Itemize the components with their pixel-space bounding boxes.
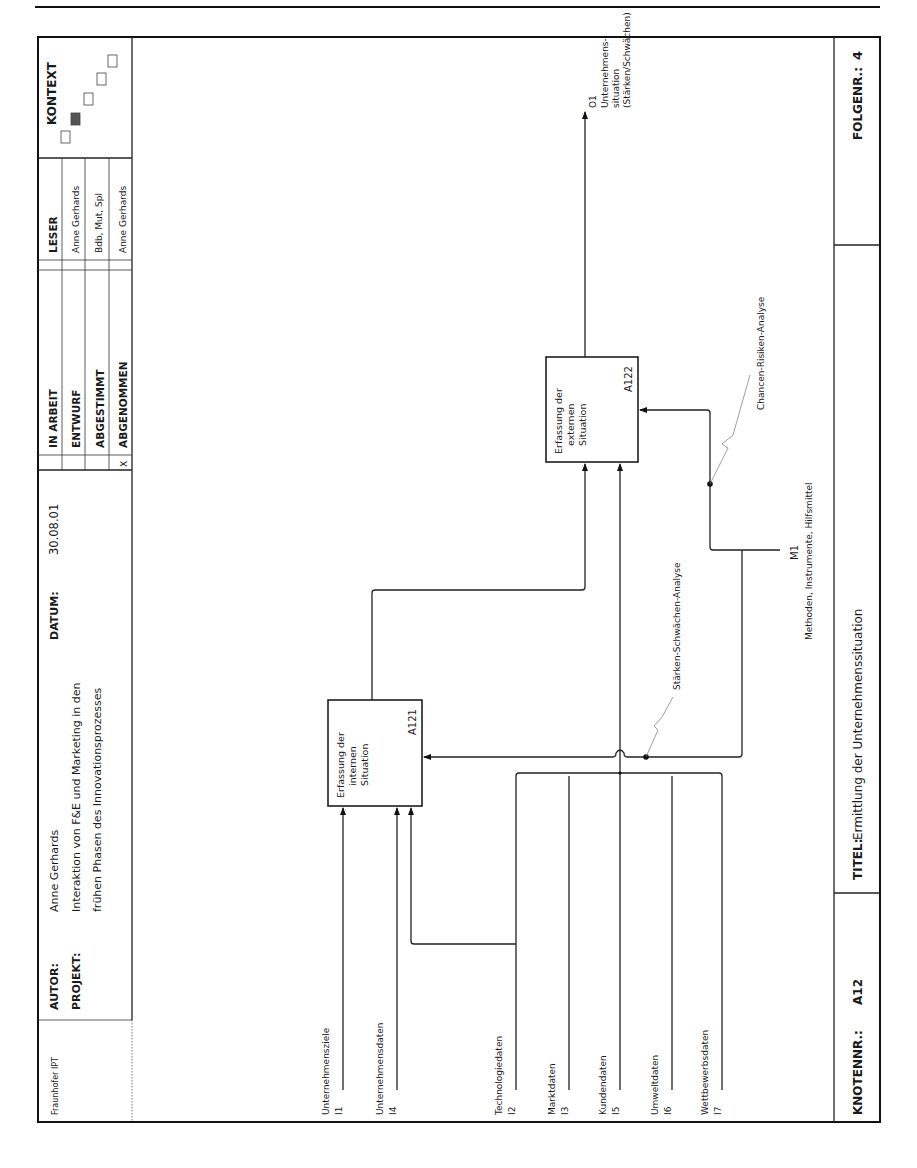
input-i6-label: Umweltdaten: [650, 1055, 660, 1115]
input-i1-code: I1: [334, 1107, 344, 1115]
arrow-a121-to-a122: [372, 464, 585, 700]
status-entwurf: ENTWURF: [70, 390, 82, 449]
date-value: 30.08.01: [47, 504, 61, 555]
status-abgenommen-mark: X: [119, 461, 129, 467]
arrow-i2-branch-a121: [411, 808, 516, 944]
input-i5-code: I5: [611, 1107, 621, 1115]
mechanism-label: Methoden, Instrumente, Hilfsmittel: [804, 483, 814, 640]
input-labels: Unternehmensziele I1 Unternehmensdaten I…: [321, 1022, 723, 1116]
annotation-leader-opportunities: [710, 375, 750, 484]
arrow-m1-a122: [640, 410, 780, 550]
input-i7-label: Wettbewerbsdaten: [700, 1030, 710, 1115]
annotation-leader-strengths: [646, 697, 673, 757]
reader-label: LESER: [47, 216, 59, 253]
project-line-1: Interaktion von F&E und Marketing in den: [70, 682, 83, 912]
a122-label-line1: Erfassung der: [553, 388, 564, 454]
context-node-5: [108, 55, 117, 67]
project-line-2: frühen Phasen des Innovationsprozesses: [91, 687, 104, 912]
input-i2-code: I2: [507, 1107, 517, 1115]
sequence-label: FOLGENR.:: [851, 67, 865, 140]
node-number: A12: [851, 979, 865, 1005]
a121-label-line1: Erfassung der: [335, 732, 346, 798]
project-label: PROJEKT:: [70, 953, 83, 1010]
mechanism-code: M1: [789, 545, 800, 560]
annotation-strengths-weaknesses: Stärken-Schwächen-Analyse: [672, 562, 682, 690]
a121-id: A121: [407, 709, 418, 735]
output-label-line1: Unternehmens-: [600, 38, 610, 108]
output-label-line2: situation: [611, 69, 621, 108]
a122-label-line2: externen: [565, 404, 576, 447]
a121-label-line2: internen: [347, 746, 358, 786]
arrow-m1-a121: [424, 550, 742, 757]
title-value: Ermittlung der Unternehmenssituation: [851, 609, 865, 840]
title-label: TITEL:: [851, 839, 865, 880]
status-abgenommen: ABGENOMMEN: [117, 362, 129, 449]
input-i4-code: I4: [388, 1106, 398, 1115]
a121-label-line3: Situation: [359, 744, 370, 786]
date-label: DATUM:: [48, 591, 61, 640]
organization-label: Fraunhofer IPT: [51, 1057, 60, 1115]
reader-1: Anne Gerhards: [71, 186, 81, 253]
input-i6-code: I6: [663, 1106, 673, 1115]
footer-block: [834, 37, 880, 1122]
output-label-line3: (Stärken/Schwächen): [622, 12, 632, 108]
status-in-arbeit: IN ARBEIT: [47, 388, 59, 448]
input-i3-code: I3: [560, 1107, 570, 1115]
context-block: KONTEXT: [45, 55, 117, 143]
a122-label-line3: Situation: [577, 404, 588, 446]
activity-a121[interactable]: Erfassung der internen Situation A121: [328, 700, 422, 806]
sequence-number: 4: [850, 51, 865, 60]
context-label: KONTEXT: [45, 61, 59, 125]
context-node-3: [84, 93, 93, 105]
status-abgestimmt: ABGESTIMMT: [94, 369, 106, 448]
sheet-frame: [38, 37, 880, 1122]
idef0-diagram-sheet: KONTEXT LESER Anne Gerhards Bdb, Mut, Sp…: [0, 0, 917, 1168]
reader-3: Anne Gerhards: [118, 186, 128, 253]
input-i7-code: I7: [713, 1107, 723, 1115]
annotation-opportunities-risks: Chancen-Risiken-Analyse: [756, 296, 766, 410]
a122-id: A122: [623, 366, 634, 392]
node-label: KNOTENNR.:: [851, 1030, 865, 1115]
input-i3-label: Marktdaten: [547, 1063, 557, 1115]
input-i1-label: Unternehmensziele: [321, 1027, 331, 1115]
author-name: Anne Gerhards: [48, 830, 61, 912]
input-i5-label: Kundendaten: [598, 1055, 608, 1115]
author-label: AUTOR:: [48, 963, 61, 1010]
context-node-1: [61, 131, 70, 143]
reader-2: Bdb, Mut, Spl: [94, 193, 104, 253]
input-i2-label: Technologiedaten: [494, 1036, 504, 1116]
context-node-current: [71, 113, 80, 125]
output-code: O1: [588, 95, 598, 108]
input-i4-label: Unternehmensdaten: [375, 1022, 385, 1115]
activity-a122[interactable]: Erfassung der externen Situation A122: [546, 357, 638, 462]
context-node-4: [97, 73, 106, 85]
